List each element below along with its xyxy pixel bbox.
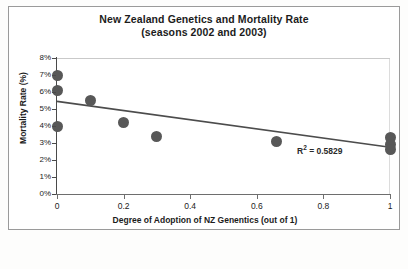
y-axis-tick-label: 7% [25,71,51,79]
y-axis-tick [52,177,56,178]
x-axis-line [56,194,391,195]
chart-border: New Zealand Genetics and Mortality Rate … [8,6,400,230]
y-axis-tick-label-text: 0% [27,190,51,198]
y-axis-tick [52,109,56,110]
gridline-top [57,58,390,59]
x-axis-tick [390,195,391,199]
x-axis-tick [124,195,125,199]
chart-subtitle: (seasons 2002 and 2003) [9,26,399,39]
y-axis-tick-label-text: 1% [27,173,51,181]
y-axis-tick-label: 0% [25,190,51,198]
data-point [385,144,396,155]
y-axis-tick-label-text: 7% [27,71,51,79]
y-axis-tick-label-text: 4% [27,122,51,130]
plot-area [57,58,390,194]
x-axis-tick-label: 0.6 [237,201,277,211]
y-axis-tick [52,143,56,144]
y-axis-tick [52,160,56,161]
r-squared-annotation: R2 = 0.5829 [297,144,342,156]
chart-figure: New Zealand Genetics and Mortality Rate … [0,0,408,269]
x-axis-tick [57,195,58,199]
y-axis-tick-label: 2% [25,156,51,164]
y-axis-tick [52,126,56,127]
x-axis-tick-label: 0.8 [303,201,343,211]
y-axis-tick-label-text: 8% [27,54,51,62]
y-axis-tick-label-text: 2% [27,156,51,164]
y-axis-tick-label-text: 6% [27,88,51,96]
y-axis-tick-label: 1% [25,173,51,181]
y-axis-tick [52,58,56,59]
y-axis-tick [52,194,56,195]
y-axis-tick [52,92,56,93]
y-axis-tick-label: 5% [25,105,51,113]
y-axis-tick-label: 3% [25,139,51,147]
data-point [85,95,96,106]
x-axis-title: Degree of Adoption of NZ Genentics (out … [9,215,401,225]
trendline [57,58,390,194]
y-axis-tick [52,75,56,76]
data-point [271,136,282,147]
x-axis-tick-label: 0 [37,201,77,211]
x-axis-tick-label: 1 [370,201,408,211]
chart-title-block: New Zealand Genetics and Mortality Rate … [9,13,399,39]
y-axis-tick-label-text: 3% [27,139,51,147]
y-axis-tick-label: 8% [25,54,51,62]
data-point [52,85,63,96]
y-axis-tick-label-text: 5% [27,105,51,113]
x-axis-tick-label: 0.4 [170,201,210,211]
x-axis-tick [257,195,258,199]
x-axis-tick [190,195,191,199]
chart-title: New Zealand Genetics and Mortality Rate [9,13,399,26]
y-axis-tick-label: 4% [25,122,51,130]
x-axis-tick-label: 0.2 [104,201,144,211]
r-squared-value: = 0.5829 [307,146,343,156]
x-axis-tick [323,195,324,199]
y-axis-tick-label: 6% [25,88,51,96]
